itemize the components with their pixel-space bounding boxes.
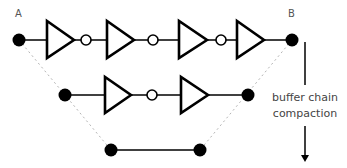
node-dot: [194, 144, 207, 157]
buffer-icon: [47, 21, 74, 58]
node-dot: [242, 89, 255, 102]
label-b: B: [288, 8, 295, 19]
caption-line1: buffer chain: [265, 90, 345, 106]
buffer-icon: [179, 21, 207, 58]
inverter-bubble-icon: [147, 90, 157, 100]
row-direct-wire: [105, 144, 207, 157]
label-a: A: [15, 8, 22, 19]
buffer-icon: [105, 77, 131, 113]
node-dot: [105, 144, 118, 157]
row-original-chain: [13, 21, 299, 58]
buffer-icon: [107, 21, 134, 58]
inverter-bubble-icon: [216, 35, 226, 45]
caption-line2: compaction: [265, 106, 345, 122]
inverter-bubble-icon: [148, 35, 158, 45]
buffer-icon: [237, 21, 264, 58]
buffer-icon: [181, 77, 208, 113]
node-a-dot: [13, 34, 26, 47]
row-compacted-chain: [59, 77, 255, 113]
buffer-chain-diagram: [0, 0, 347, 168]
node-b-dot: [286, 34, 299, 47]
inverter-bubble-icon: [81, 35, 91, 45]
node-dot: [59, 89, 72, 102]
